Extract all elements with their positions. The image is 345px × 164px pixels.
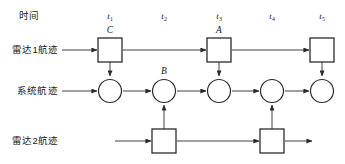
time-tick-t3: t3	[216, 12, 222, 21]
row-label-system: 系统航迹	[17, 86, 58, 96]
time-tick-t4-sub: 4	[272, 16, 275, 22]
node-label-A: A	[216, 26, 222, 36]
row-label-radar1: 雷达1航迹	[12, 45, 58, 55]
radar2-node-t4[interactable]	[260, 129, 284, 153]
row-label-radar2: 雷达2航迹	[12, 136, 58, 146]
node-label-B: B	[161, 67, 167, 77]
radar1-node-t1[interactable]	[98, 38, 122, 62]
radar1-row-graphics	[62, 38, 334, 62]
time-tick-t3-sub: 3	[219, 16, 222, 22]
time-tick-t2: t2	[161, 12, 167, 21]
time-tick-t1-sub: 1	[110, 16, 113, 22]
radar2-row-graphics	[115, 129, 312, 153]
system-row-graphics	[62, 80, 334, 103]
time-axis-label: 时间	[19, 11, 39, 21]
node-label-C: C	[107, 26, 113, 36]
time-tick-t5: t5	[319, 12, 325, 21]
time-tick-t4: t4	[269, 12, 275, 21]
system-node-t2[interactable]	[153, 80, 176, 103]
time-tick-t5-sub: 5	[322, 16, 325, 22]
track-association-diagram: 时间 t1 t2 t3 t4 t5 雷达1航迹 系统航迹 雷达2航迹 C A B	[0, 0, 345, 164]
time-tick-t1: t1	[107, 12, 113, 21]
radar1-node-t5[interactable]	[310, 38, 334, 62]
time-tick-t2-sub: 2	[164, 16, 167, 22]
radar2-node-t2[interactable]	[152, 129, 176, 153]
system-node-t3[interactable]	[208, 80, 231, 103]
radar1-node-t3[interactable]	[207, 38, 231, 62]
system-node-t5[interactable]	[311, 80, 334, 103]
system-node-t4[interactable]	[261, 80, 284, 103]
system-node-t1[interactable]	[99, 80, 122, 103]
